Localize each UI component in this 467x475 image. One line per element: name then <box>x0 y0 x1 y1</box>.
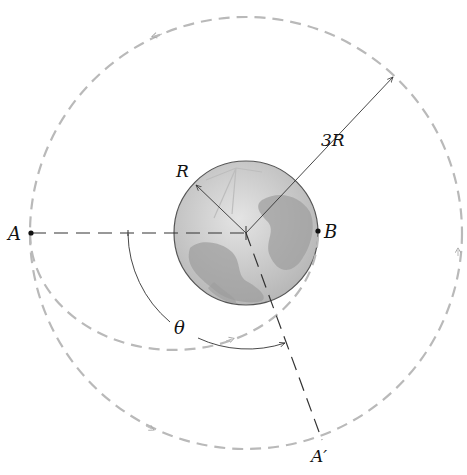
theta-arc-end <box>198 338 285 349</box>
theta-arc <box>128 234 170 322</box>
label-r: R <box>175 161 189 181</box>
radius-3r-arrow <box>246 77 393 233</box>
label-3r: 3R <box>321 130 345 150</box>
label-a: A <box>6 223 21 244</box>
label-b: B <box>323 221 337 242</box>
point-b <box>315 228 320 233</box>
orbit-diagram: A B A′ R 3R θ <box>0 0 467 475</box>
point-a <box>28 230 33 235</box>
label-theta: θ <box>174 317 185 338</box>
label-a-prime: A′ <box>309 446 327 466</box>
